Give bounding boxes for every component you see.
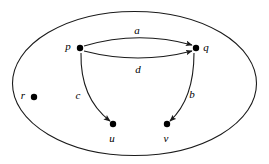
vertex-r[interactable] bbox=[31, 94, 37, 100]
vertex-label-r: r bbox=[21, 89, 26, 101]
edge-c bbox=[81, 53, 110, 121]
vertex-v[interactable] bbox=[164, 121, 170, 127]
vertex-label-u: u bbox=[109, 132, 115, 144]
edge-d bbox=[84, 51, 192, 58]
vertex-label-q: q bbox=[203, 41, 209, 53]
edge-a bbox=[84, 38, 192, 46]
edge-label-d: d bbox=[135, 63, 141, 75]
edges-group bbox=[81, 38, 194, 121]
vertex-q[interactable] bbox=[193, 45, 199, 51]
diagram-canvas: a d c b p q r u v bbox=[0, 0, 269, 164]
vertex-label-v: v bbox=[164, 132, 169, 144]
edge-labels-group: a d c b bbox=[76, 24, 196, 101]
edge-label-b: b bbox=[189, 88, 195, 100]
edge-label-c: c bbox=[76, 89, 81, 101]
vertex-p[interactable] bbox=[77, 45, 83, 51]
edge-label-a: a bbox=[134, 24, 140, 36]
vertex-u[interactable] bbox=[110, 121, 116, 127]
directed-graph-svg: a d c b p q r u v bbox=[0, 0, 269, 164]
vertex-labels-group: p q r u v bbox=[21, 40, 209, 144]
vertex-label-p: p bbox=[64, 40, 71, 52]
